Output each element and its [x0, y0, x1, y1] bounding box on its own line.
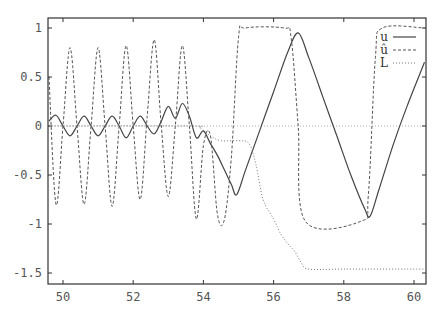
legend-label: L: [380, 56, 388, 70]
x-tick-label: 54: [196, 290, 210, 304]
y-tick-label: -0.5: [13, 168, 42, 182]
legend-label: û: [380, 43, 388, 57]
x-tick-label: 52: [126, 290, 140, 304]
line-chart: 50525456586010.50-0.5-1-1.5 uûL: [0, 0, 438, 311]
x-tick-label: 60: [407, 290, 421, 304]
y-tick-label: 1: [35, 21, 42, 35]
y-tick-label: 0.5: [20, 70, 42, 84]
legend-label: u: [380, 30, 388, 44]
x-tick-label: 58: [337, 290, 351, 304]
y-tick-label: -1: [28, 217, 42, 231]
x-tick-label: 50: [56, 290, 70, 304]
x-tick-label: 56: [266, 290, 280, 304]
plot-area: [48, 26, 426, 270]
y-tick-label: 0: [35, 119, 42, 133]
series-u-hat-line: [49, 26, 425, 230]
y-tick-label: -1.5: [13, 266, 42, 280]
legend: uûL: [380, 30, 416, 70]
